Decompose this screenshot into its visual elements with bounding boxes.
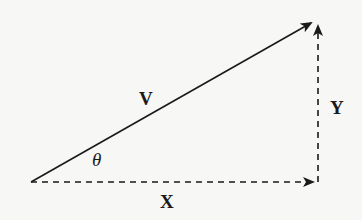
label-y: Y <box>330 98 344 117</box>
label-x: X <box>160 192 174 211</box>
label-theta-angle: θ <box>92 150 101 169</box>
vector-diagram <box>0 0 362 220</box>
label-v: V <box>139 89 153 108</box>
vector-v-line <box>31 23 311 182</box>
